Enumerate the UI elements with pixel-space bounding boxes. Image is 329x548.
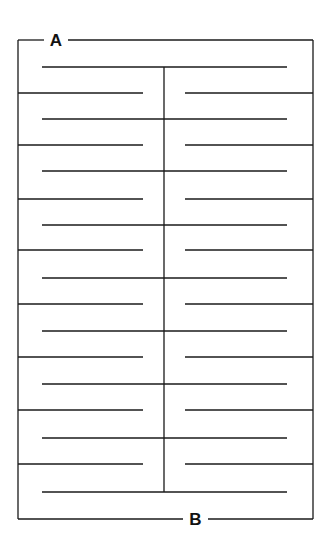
start-label: A [50,31,62,50]
maze-frame [18,40,313,519]
maze-diagram: A B [0,0,329,548]
end-label: B [189,510,201,529]
